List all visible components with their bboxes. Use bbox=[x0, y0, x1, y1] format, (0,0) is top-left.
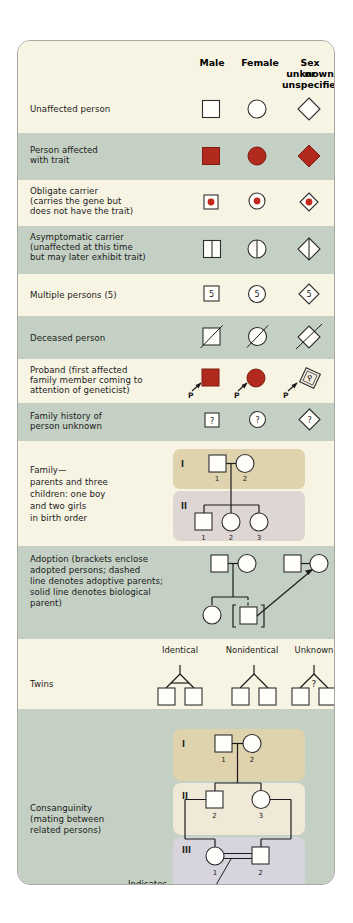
consang-id-1-2: 2 bbox=[250, 756, 254, 764]
consanguinity-pedigree: I 1 2 II 2 3 III 1 2 bbox=[173, 727, 313, 885]
row-label-unaffected: Unaffected person bbox=[30, 104, 110, 115]
header-male: Male bbox=[190, 57, 234, 68]
row-label-consang-2: (mating between bbox=[30, 814, 104, 825]
symbol-deceased-male bbox=[200, 325, 226, 351]
row-label-consang-3: related persons) bbox=[30, 825, 101, 836]
consang-gen-label-3: III bbox=[182, 846, 191, 855]
row-label-multiple: Multiple persons (5) bbox=[30, 290, 117, 301]
pedigree-legend-card: Male Female Sex unknown or unspecified U… bbox=[17, 40, 335, 885]
family-id-2-3: 3 bbox=[257, 534, 261, 542]
row-label-asymptomatic-1: Asymptomatic carrier bbox=[30, 232, 124, 243]
symbol-deceased-unknown bbox=[295, 323, 325, 353]
consang-id-3-2: 2 bbox=[258, 869, 262, 877]
symbol-obligate-female bbox=[247, 191, 269, 213]
row-label-twins: Twins bbox=[30, 679, 53, 690]
symbol-multiple-male: 5 bbox=[202, 284, 224, 306]
row-label-obligate-1: Obligate carrier bbox=[30, 186, 98, 197]
row-label-proband-3: attention of geneticist) bbox=[30, 385, 130, 396]
symbol-unaffected-unknown bbox=[296, 96, 324, 124]
header-unknown-line2: or unspecified bbox=[282, 68, 335, 90]
family-gen-label-1: I bbox=[181, 460, 184, 469]
symbol-proband-male: P bbox=[184, 367, 228, 401]
famhist-marker-unknown: ? bbox=[307, 416, 311, 425]
symbol-affected-male bbox=[200, 145, 224, 169]
consanguinity-callout-leader bbox=[198, 859, 238, 885]
multiple-count-female: 5 bbox=[254, 290, 259, 299]
twins-identical bbox=[156, 661, 208, 705]
row-label-adoption-4: solid line denotes biological bbox=[30, 587, 151, 598]
twins-label-identical: Identical bbox=[148, 645, 212, 655]
symbol-unaffected-male bbox=[200, 98, 224, 122]
symbol-asymptomatic-female bbox=[246, 238, 270, 262]
twins-unknown: ? bbox=[290, 661, 335, 705]
symbol-obligate-male bbox=[202, 193, 224, 215]
row-label-family-2: parents and three bbox=[30, 477, 108, 488]
row-label-family-1: Family— bbox=[30, 465, 67, 476]
symbol-famhist-male: ? bbox=[203, 411, 225, 433]
row-label-proband-1: Proband (first affected bbox=[30, 365, 127, 376]
row-label-consang-1: Consanguinity bbox=[30, 803, 92, 814]
symbol-famhist-unknown: ? bbox=[297, 407, 325, 435]
row-label-obligate-3: does not have the trait) bbox=[30, 206, 133, 217]
row-label-asymptomatic-2: (unaffected at this time bbox=[30, 242, 133, 253]
adoption-pedigree bbox=[198, 549, 328, 635]
row-label-affected-1: Person affected bbox=[30, 145, 98, 156]
twins-unknown-marker: ? bbox=[312, 679, 317, 689]
family-gen-label-2: II bbox=[181, 502, 187, 511]
symbol-obligate-unknown bbox=[298, 191, 324, 217]
row-label-family-4: and two girls bbox=[30, 501, 86, 512]
consang-id-1-1: 1 bbox=[221, 756, 225, 764]
row-label-adoption-2: adopted persons; dashed bbox=[30, 565, 140, 576]
row-label-asymptomatic-3: but may later exhibit trait) bbox=[30, 252, 146, 263]
family-pedigree: I 1 2 II 1 2 3 bbox=[173, 447, 313, 547]
famhist-marker-female: ? bbox=[255, 416, 259, 425]
twins-label-nonidentical: Nonidentical bbox=[212, 645, 292, 655]
symbol-unaffected-female bbox=[246, 98, 270, 122]
row-label-adoption-5: parent) bbox=[30, 598, 62, 609]
row-label-family-3: children: one boy bbox=[30, 489, 105, 500]
consang-gen-label-1: I bbox=[182, 740, 185, 749]
proband-marker-male: P bbox=[188, 391, 194, 400]
proband-marker-female: P bbox=[234, 391, 240, 400]
row-label-deceased: Deceased person bbox=[30, 333, 105, 344]
symbol-asymptomatic-unknown bbox=[296, 236, 324, 264]
famhist-marker-male: ? bbox=[210, 417, 214, 426]
symbol-proband-unknown: PP bbox=[280, 363, 332, 403]
proband-marker-unknown: P bbox=[283, 391, 289, 400]
symbol-proband-female: P bbox=[230, 367, 274, 401]
symbol-famhist-female: ? bbox=[247, 409, 271, 433]
row-label-famhist-2: person unknown bbox=[30, 421, 102, 432]
symbol-deceased-female bbox=[246, 325, 272, 351]
consanguinity-callout-line1: Indicates bbox=[128, 879, 167, 885]
family-id-1-2: 2 bbox=[243, 475, 247, 483]
row-label-adoption-3: line denotes adoptive parents; bbox=[30, 576, 163, 587]
multiple-count-unknown: 5 bbox=[306, 290, 311, 299]
symbol-affected-unknown bbox=[296, 143, 324, 171]
row-label-adoption-1: Adoption (brackets enclose bbox=[30, 554, 148, 565]
row-label-proband-2: family member coming to bbox=[30, 375, 142, 386]
family-id-1-1: 1 bbox=[215, 475, 219, 483]
row-label-affected-2: with trait bbox=[30, 155, 69, 166]
twins-nonidentical bbox=[230, 661, 282, 705]
family-id-2-1: 1 bbox=[201, 534, 205, 542]
consang-id-2-2: 3 bbox=[259, 812, 263, 820]
row-label-obligate-2: (carries the gene but bbox=[30, 196, 122, 207]
symbol-multiple-unknown: 5 bbox=[297, 282, 325, 310]
multiple-count-male: 5 bbox=[209, 290, 214, 299]
header-female: Female bbox=[234, 57, 286, 68]
symbol-asymptomatic-male bbox=[201, 238, 225, 262]
row-label-famhist-1: Family history of bbox=[30, 411, 102, 422]
row-label-family-5: in birth order bbox=[30, 513, 87, 524]
symbol-affected-female bbox=[246, 145, 270, 169]
twins-label-unknown: Unknown bbox=[286, 645, 335, 655]
symbol-multiple-female: 5 bbox=[246, 283, 270, 307]
consang-id-2-1: 2 bbox=[212, 812, 216, 820]
family-id-2-2: 2 bbox=[229, 534, 233, 542]
